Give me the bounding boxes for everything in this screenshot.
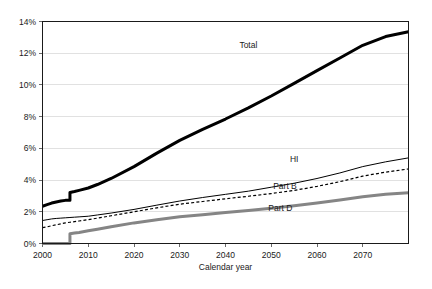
y-axis-label-4: 4% [24, 175, 37, 185]
x-axis-label-2050: 2050 [262, 250, 281, 260]
series-annotation-hi: HI [290, 154, 299, 164]
y-axis-label-10: 10% [19, 80, 36, 90]
y-axis-label-14: 14% [19, 17, 36, 27]
y-axis-label-0: 0% [24, 239, 37, 249]
series-annotation-part-d: Part D [268, 203, 292, 213]
chart-container: 0%2%4%6%8%10%12%14% 20002010202020302040… [0, 0, 432, 289]
y-axis-label-6: 6% [24, 143, 37, 153]
series-annotation-total: Total [239, 40, 257, 50]
x-axis-label-2000: 2000 [33, 250, 52, 260]
medicare-cost-line-chart: 0%2%4%6%8%10%12%14% 20002010202020302040… [0, 0, 432, 289]
x-axis-label-2010: 2010 [79, 250, 98, 260]
x-axis-label-2060: 2060 [308, 250, 327, 260]
x-axis-title: Calendar year [199, 262, 253, 272]
x-axis-label-2070: 2070 [353, 250, 372, 260]
y-axis-label-2: 2% [24, 207, 37, 217]
y-axis-label-12: 12% [19, 48, 36, 58]
y-axis-label-8: 8% [24, 112, 37, 122]
x-axis-label-2020: 2020 [125, 250, 144, 260]
x-axis-label-2040: 2040 [216, 250, 235, 260]
x-axis-label-2030: 2030 [170, 250, 189, 260]
series-annotation-part-b: Part B [273, 181, 297, 191]
